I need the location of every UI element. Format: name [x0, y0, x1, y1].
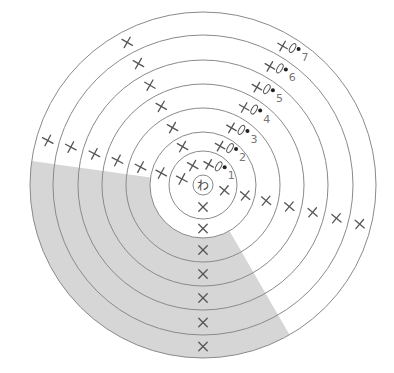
round-number: 7 [302, 51, 309, 64]
single-crochet-icon [216, 182, 233, 199]
single-crochet-icon [153, 165, 169, 181]
single-crochet-icon [224, 120, 239, 135]
single-crochet-icon [195, 199, 212, 216]
single-crochet-icon [304, 204, 321, 221]
single-crochet-icon [262, 59, 277, 74]
single-crochet-icon [130, 55, 146, 71]
chain-icon [275, 63, 284, 74]
chain-icon [214, 161, 223, 172]
single-crochet-icon [275, 39, 290, 54]
round-6-marker: 6 [275, 63, 296, 85]
round-number: 2 [239, 151, 246, 164]
single-crochet-icon [213, 139, 228, 154]
round-number: 3 [250, 133, 257, 146]
single-crochet-icon [258, 192, 275, 209]
single-crochet-icon [237, 100, 252, 115]
slip-stitch-icon [223, 165, 227, 169]
single-crochet-icon [249, 80, 264, 95]
single-crochet-icon [237, 187, 254, 204]
crochet-diagram: 1234567 わ [0, 0, 394, 373]
chain-icon [288, 43, 297, 54]
single-crochet-icon [184, 157, 200, 173]
slip-stitch-icon [297, 47, 301, 51]
round-number: 4 [263, 113, 270, 126]
slip-stitch-icon [234, 147, 238, 151]
slip-stitch-icon [271, 88, 275, 92]
single-crochet-icon [164, 119, 180, 135]
round-number: 1 [228, 169, 235, 182]
single-crochet-icon [63, 139, 79, 155]
round-number: 5 [276, 92, 283, 105]
single-crochet-icon [174, 171, 190, 187]
chain-icon [225, 143, 234, 154]
round-2-marker: 2 [225, 143, 246, 165]
single-crochet-icon [201, 157, 216, 172]
round-1-marker: 1 [214, 161, 235, 183]
single-crochet-icon [328, 210, 345, 227]
single-crochet-icon [109, 152, 125, 168]
single-crochet-icon [174, 138, 190, 154]
single-crochet-icon [119, 34, 135, 50]
single-crochet-icon [142, 77, 158, 93]
single-crochet-icon [351, 216, 368, 233]
single-crochet-icon [40, 132, 56, 148]
single-crochet-icon [195, 220, 212, 237]
single-crochet-icon [86, 146, 102, 162]
chain-icon [237, 124, 246, 135]
single-crochet-icon [281, 198, 298, 215]
slip-stitch-icon [258, 109, 262, 113]
single-crochet-icon [153, 98, 169, 114]
round-number: 6 [289, 71, 296, 84]
chain-icon [262, 84, 271, 95]
magic-ring-label: わ [197, 179, 209, 193]
slip-stitch-icon [245, 129, 249, 133]
chain-icon [250, 104, 259, 115]
single-crochet-icon [132, 159, 148, 175]
slip-stitch-icon [284, 67, 288, 71]
